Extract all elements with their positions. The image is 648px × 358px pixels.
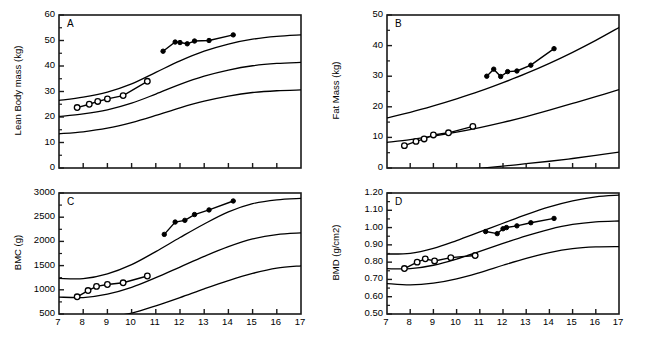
- data-point-open-circle: [74, 105, 80, 111]
- x-tick-label: 14: [218, 316, 236, 327]
- y-tick-label: 1.20: [349, 186, 383, 197]
- data-point-filled-circle: [515, 69, 519, 73]
- x-tick-label: 14: [539, 316, 557, 327]
- axes-frame: [387, 193, 619, 314]
- y-tick-label: 2500: [21, 210, 55, 221]
- x-tick-label: 13: [516, 316, 534, 327]
- reference-curve-lower-percentile: [59, 266, 301, 315]
- y-tick-label: 1.10: [349, 203, 383, 214]
- data-point-filled-circle: [492, 67, 496, 71]
- data-point-filled-circle: [207, 208, 211, 212]
- x-tick-label: 12: [493, 316, 511, 327]
- data-point-filled-circle: [529, 221, 533, 225]
- data-point-open-circle: [431, 132, 437, 138]
- y-tick-label: 2000: [21, 234, 55, 245]
- tick-group: [59, 193, 277, 314]
- data-point-open-circle: [74, 294, 80, 300]
- plot-area-c: [58, 192, 302, 315]
- data-point-filled-circle: [515, 224, 519, 228]
- axes-frame: [387, 15, 619, 168]
- data-point-filled-circle: [505, 69, 509, 73]
- data-point-open-circle: [402, 266, 408, 272]
- x-tick-label: 7: [49, 316, 67, 327]
- data-point-filled-circle: [161, 49, 165, 53]
- y-tick-label: 1500: [21, 259, 55, 270]
- data-point-open-circle: [402, 143, 408, 149]
- x-tick-label: 8: [400, 316, 418, 327]
- reference-curve-group: [387, 28, 619, 169]
- panel-letter-a: A: [67, 18, 74, 29]
- data-point-filled-circle: [483, 229, 487, 233]
- series-open-circle-subject: [74, 273, 150, 299]
- y-tick-label: 0.70: [349, 272, 383, 283]
- data-point-open-circle: [414, 259, 420, 265]
- x-tick-label: 16: [586, 316, 604, 327]
- x-tick-label: 10: [447, 316, 465, 327]
- data-point-open-circle: [470, 124, 476, 130]
- data-point-filled-circle: [185, 42, 189, 46]
- x-tick-label: 16: [267, 316, 285, 327]
- y-tick-label: 30: [349, 69, 383, 80]
- y-tick-label: 40: [21, 59, 55, 70]
- data-point-filled-circle: [173, 40, 177, 44]
- series-open-circle-subject: [402, 124, 476, 149]
- data-point-filled-circle: [529, 63, 533, 67]
- data-point-filled-circle: [495, 231, 499, 235]
- tick-group: [387, 15, 596, 168]
- panel-letter-c: C: [67, 196, 74, 207]
- panel-b: [386, 14, 620, 169]
- data-point-filled-circle: [504, 225, 508, 229]
- data-point-filled-circle: [183, 218, 187, 222]
- tick-group: [387, 193, 596, 314]
- y-tick-label: 60: [21, 8, 55, 19]
- y-tick-label: 0: [21, 161, 55, 172]
- data-point-filled-circle: [178, 40, 182, 44]
- data-point-open-circle: [413, 139, 419, 145]
- data-point-open-circle: [446, 130, 452, 136]
- reference-curve-upper-percentile: [387, 195, 619, 254]
- figure-container: ALean Body mass (kg)0102030405060BFat Ma…: [0, 0, 648, 358]
- data-point-open-circle: [421, 136, 427, 142]
- series-line-filled-circle-subject: [164, 201, 233, 234]
- data-point-open-circle: [86, 101, 92, 107]
- y-tick-label: 10: [21, 136, 55, 147]
- data-point-filled-circle: [173, 220, 177, 224]
- y-tick-label: 0.90: [349, 238, 383, 249]
- reference-curve-group: [59, 35, 301, 134]
- data-point-filled-circle: [552, 216, 556, 220]
- series-line-filled-circle-subject: [487, 49, 554, 77]
- data-point-open-circle: [145, 273, 151, 279]
- y-tick-label: 20: [349, 100, 383, 111]
- y-tick-label: 0.80: [349, 255, 383, 266]
- series-filled-circle-subject: [485, 46, 557, 78]
- data-point-open-circle: [422, 256, 428, 262]
- data-point-filled-circle: [192, 212, 196, 216]
- series-filled-circle-subject: [162, 199, 235, 237]
- data-point-filled-circle: [231, 33, 235, 37]
- y-tick-label: 0: [349, 161, 383, 172]
- plot-area-b: [386, 14, 620, 169]
- panel-a: [58, 14, 302, 169]
- x-tick-label: 15: [563, 316, 581, 327]
- data-point-open-circle: [145, 79, 151, 85]
- y-tick-label: 30: [21, 85, 55, 96]
- y-tick-label: 50: [21, 34, 55, 45]
- x-tick-label: 11: [470, 316, 488, 327]
- x-tick-label: 7: [377, 316, 395, 327]
- data-point-open-circle: [94, 284, 100, 290]
- y-axis-label-b: Fat Mass (kg): [330, 14, 341, 167]
- data-point-filled-circle: [552, 46, 556, 50]
- data-point-filled-circle: [192, 39, 196, 43]
- series-open-circle-subject: [74, 79, 150, 111]
- data-point-open-circle: [448, 255, 454, 261]
- y-tick-label: 50: [349, 8, 383, 19]
- y-tick-label: 0.60: [349, 290, 383, 301]
- series-filled-circle-subject: [161, 33, 236, 54]
- panel-letter-b: B: [395, 18, 402, 29]
- data-point-open-circle: [432, 258, 438, 264]
- x-tick-label: 12: [170, 316, 188, 327]
- reference-curve-group: [59, 198, 301, 315]
- plot-area-d: [386, 192, 620, 315]
- data-point-open-circle: [85, 288, 91, 294]
- x-tick-label: 11: [146, 316, 164, 327]
